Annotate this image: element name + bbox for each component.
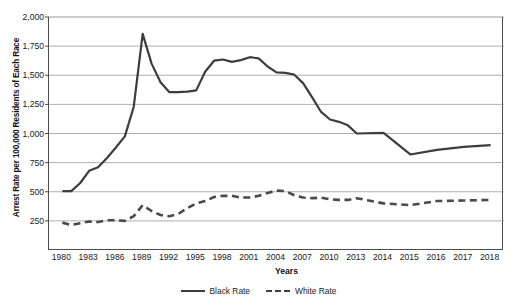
gridlines	[45, 17, 504, 221]
legend-item-label: White Rate	[295, 286, 336, 296]
legend-item: White Rate	[266, 286, 336, 296]
arrest-rate-line-chart: Arrest Rate per 100,000 Residents of Eac…	[0, 0, 517, 305]
x-axis-title: Years	[0, 266, 517, 276]
y-tick-label: 1,000	[4, 129, 44, 139]
legend-line-icon	[266, 290, 290, 292]
y-tick-label: 1,750	[4, 41, 44, 51]
y-tick-label: 2,000	[4, 12, 44, 22]
legend-line-icon	[181, 290, 205, 292]
x-tick-label: 2018	[468, 252, 512, 262]
x-axis-title-text: Years	[275, 266, 298, 276]
y-tick-label: 1,500	[4, 70, 44, 80]
series-line-white-rate	[62, 191, 490, 225]
data-series-group	[62, 34, 490, 225]
plot-svg	[49, 17, 504, 250]
y-tick-label: 250	[4, 216, 44, 226]
y-tick-label: 500	[4, 187, 44, 197]
y-tick-label: 1,250	[4, 99, 44, 109]
plot-area	[48, 17, 503, 250]
y-axis-tick-labels: 2505007501,0001,2501,5001,7502,000	[0, 0, 44, 305]
legend-item: Black Rate	[181, 286, 251, 296]
y-tick-label: 750	[4, 158, 44, 168]
chart-legend: Black RateWhite Rate	[0, 286, 517, 296]
legend-item-label: Black Rate	[210, 286, 251, 296]
series-line-black-rate	[62, 34, 490, 191]
